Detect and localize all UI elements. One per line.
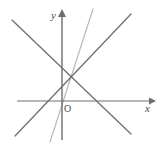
coordinate-figure: y x O	[0, 0, 160, 148]
origin-label: O	[64, 103, 71, 114]
x-axis-label: x	[144, 102, 150, 114]
figure-canvas: y x O	[0, 0, 160, 148]
steep-line	[50, 9, 93, 142]
y-axis-label: y	[50, 9, 56, 21]
